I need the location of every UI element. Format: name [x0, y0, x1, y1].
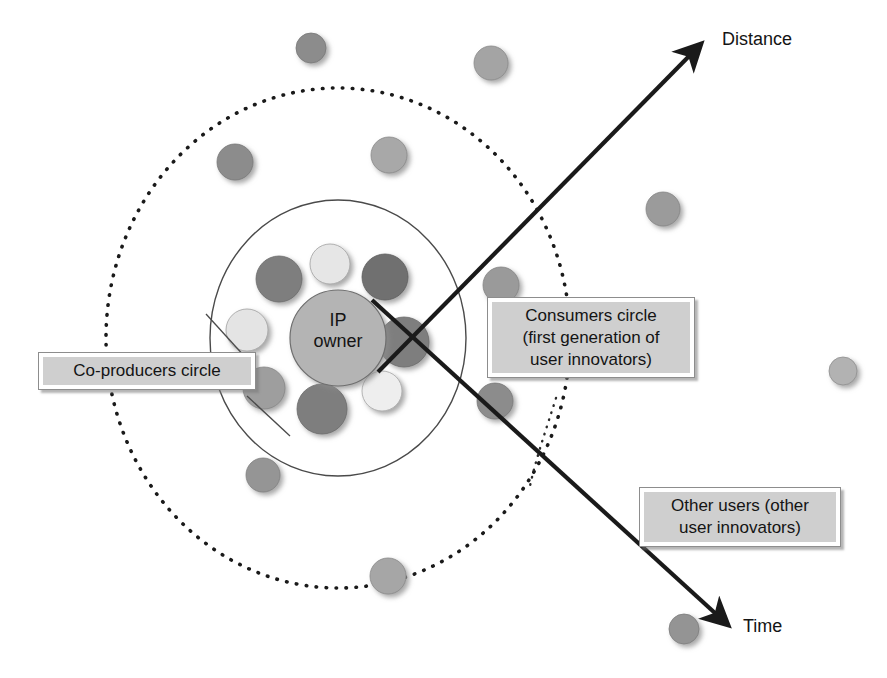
callout-other-users-label: Other users (other user innovators) [644, 492, 836, 542]
callout-other-users[interactable]: Other users (other user innovators) [639, 487, 841, 547]
other-user-dot-2 [474, 46, 508, 80]
co-producer-dot-2 [310, 244, 350, 284]
co-producer-dot-4 [379, 317, 429, 367]
consumer-dot-1 [217, 144, 253, 180]
callout-co-producers-label: Co-producers circle [43, 357, 251, 385]
co-producer-dot-6 [297, 384, 347, 434]
other-user-dot-1 [296, 33, 326, 63]
consumer-dot-5 [246, 458, 280, 492]
consumer-dot-6 [370, 558, 406, 594]
diagram-canvas: IP owner Distance Time Co-producers circ… [0, 0, 887, 678]
axis-label-time: Time [743, 616, 782, 637]
diagram-svg [0, 0, 887, 678]
co-producer-dot-1 [256, 256, 302, 302]
callout-consumers-circle[interactable]: Consumers circle (first generation of us… [487, 297, 695, 378]
other-user-dot-3 [646, 192, 680, 226]
callout-co-producers-circle[interactable]: Co-producers circle [38, 352, 256, 390]
co-producer-dot-5 [362, 371, 402, 411]
other-user-dot-5 [669, 614, 699, 644]
axis-label-distance: Distance [722, 29, 792, 50]
co-producer-dot-8 [226, 309, 268, 351]
other-user-dot-4 [829, 357, 857, 385]
consumer-dot-2 [371, 137, 407, 173]
callout-consumers-label: Consumers circle (first generation of us… [492, 302, 690, 373]
co-producer-dot-3 [362, 254, 408, 300]
ip-owner-node [290, 290, 386, 386]
